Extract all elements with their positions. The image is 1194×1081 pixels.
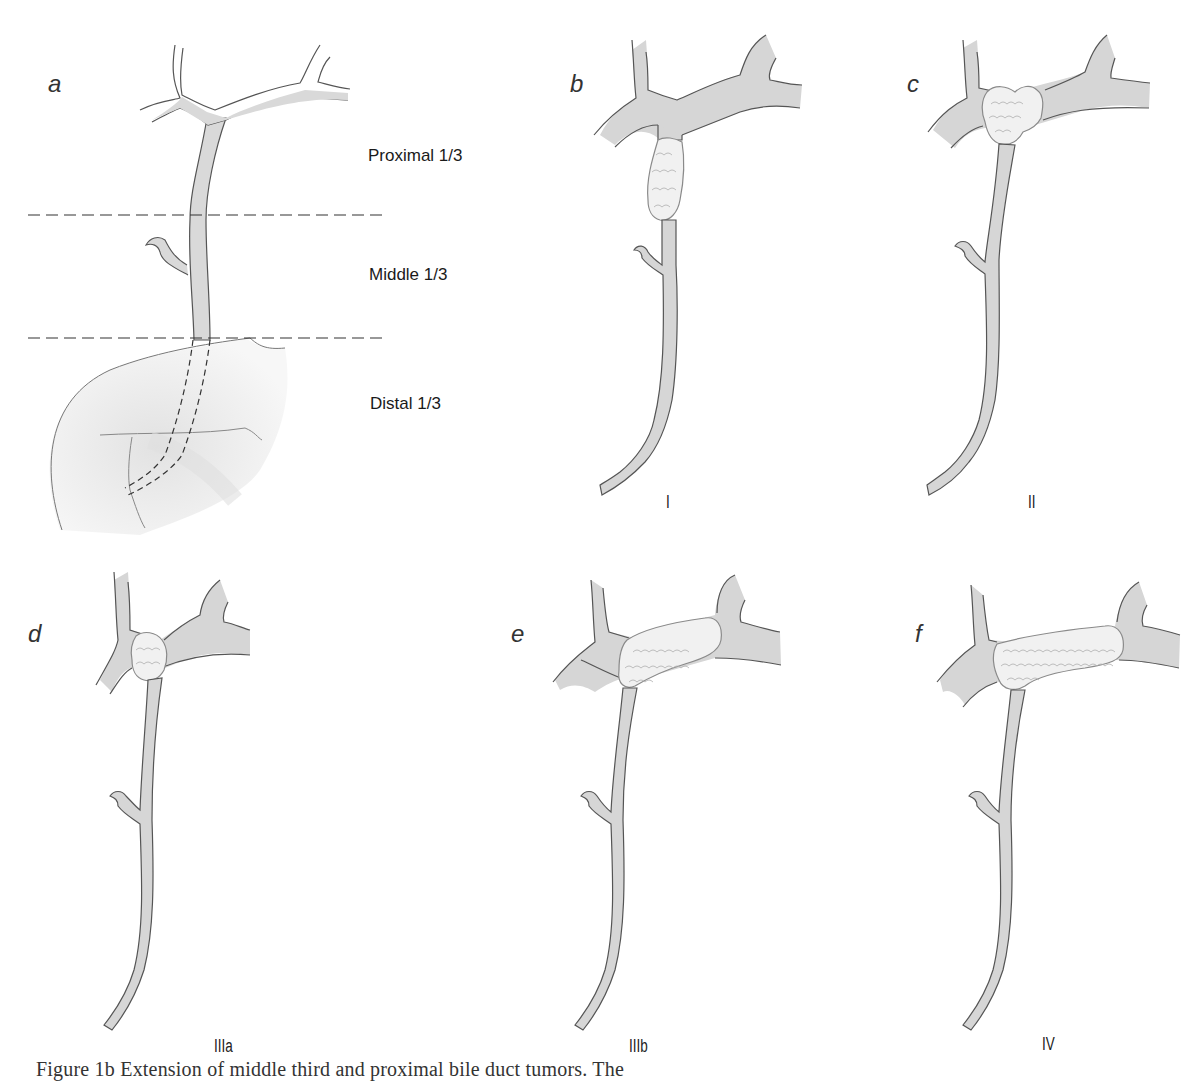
tumor	[648, 138, 684, 220]
label-middle-third: Middle 1/3	[369, 265, 447, 285]
panel-c: c II	[925, 0, 1194, 530]
type-label-iiib: IIIb	[629, 1036, 648, 1057]
figure-caption: Figure 1b Extension of middle third and …	[36, 1058, 624, 1081]
type-i-diagram	[590, 0, 880, 530]
label-proximal-third: Proximal 1/3	[368, 146, 462, 166]
type-iiia-diagram	[60, 560, 360, 1040]
type-iv-diagram	[935, 560, 1194, 1040]
panel-letter-d: d	[28, 620, 41, 648]
tumor	[131, 633, 167, 681]
tumor	[982, 86, 1043, 144]
type-iiib-diagram	[545, 560, 865, 1040]
panel-e: e IIIb	[545, 560, 865, 1040]
tumor	[993, 626, 1123, 690]
panel-f: f IV	[935, 560, 1194, 1040]
type-ii-diagram	[925, 0, 1194, 530]
panel-letter-b: b	[570, 70, 583, 98]
tumor	[619, 618, 722, 687]
panel-letter-e: e	[511, 620, 524, 648]
type-label-ii: II	[1028, 492, 1036, 513]
type-label-iiia-text: IIIa	[214, 1036, 233, 1057]
label-distal-third: Distal 1/3	[370, 394, 441, 414]
panel-a: a Proximal 1/3 Middle 1/3 Distal 1/3	[0, 0, 500, 540]
panel-d: d IIIb IIIa	[60, 560, 360, 1040]
panel-b: b I	[590, 0, 880, 530]
type-label-iv: IV	[1042, 1034, 1055, 1055]
panel-letter-f: f	[915, 620, 922, 648]
panel-letter-c: c	[907, 70, 919, 98]
type-label-i: I	[666, 492, 670, 513]
